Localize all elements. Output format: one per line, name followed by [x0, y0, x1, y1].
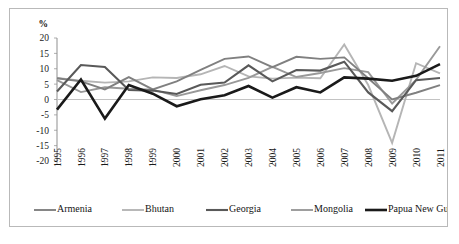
legend-label-armenia: Armenia	[57, 203, 93, 214]
y-tick-label: -5	[41, 110, 49, 120]
x-tick-label: 2007	[340, 148, 350, 167]
legend-label-bhutan: Bhutan	[145, 203, 174, 214]
x-tick-label: 2009	[388, 148, 398, 167]
y-tick-label: 15	[40, 49, 50, 59]
y-tick-label: -10	[36, 126, 49, 136]
x-tick-label: 1999	[148, 148, 158, 167]
y-tick-label: 5	[44, 80, 49, 90]
y-tick-label: -20	[36, 156, 49, 166]
y-axis-unit-label: %	[39, 19, 49, 29]
legend-label-mongolia: Mongolia	[314, 203, 353, 214]
x-tick-label: 1998	[124, 148, 134, 167]
y-axis-unit-group: %	[39, 19, 49, 29]
series-line-bhutan	[57, 44, 440, 142]
y-tick-label: 20	[40, 33, 50, 43]
x-tick-label: 2005	[292, 148, 302, 167]
x-tick-label: 2003	[244, 148, 254, 167]
x-tick-label: 2001	[196, 148, 206, 167]
x-tick-label: 1995	[53, 148, 63, 167]
x-tick-label: 2008	[364, 148, 374, 167]
x-tick-label: 2004	[268, 148, 278, 167]
x-tick-label: 2002	[220, 148, 230, 167]
chart-figure: % 20151050-5-10-15-20 199519961997199819…	[9, 8, 448, 227]
y-tick-label: 10	[40, 64, 50, 74]
legend-label-georgia: Georgia	[229, 203, 262, 214]
x-tick-label: 2011	[436, 148, 446, 167]
x-tick-label: 2006	[316, 148, 326, 167]
y-tick-label: 0	[44, 95, 49, 105]
x-tick-label: 2000	[172, 148, 182, 167]
x-tick-label: 1996	[77, 148, 87, 167]
x-tick-label: 2010	[412, 148, 422, 167]
legend-label-papua-new-guinea: Papua New Guinea	[388, 203, 447, 214]
chart-legend: ArmeniaBhutanGeorgiaMongoliaPapua New Gu…	[34, 203, 447, 214]
x-tick-label: 1997	[100, 148, 110, 167]
y-tick-label: -15	[36, 141, 49, 151]
line-chart: % 20151050-5-10-15-20 199519961997199819…	[10, 9, 447, 226]
series-lines	[57, 44, 440, 142]
y-axis-tick-labels: 20151050-5-10-15-20	[36, 33, 57, 166]
x-axis-tick-labels: 1995199619971998199920002001200220032004…	[53, 148, 446, 167]
